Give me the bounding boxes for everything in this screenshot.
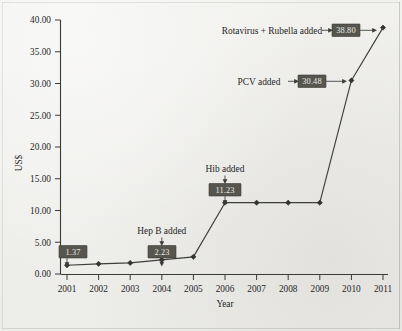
x-tick-label: 2007 [247, 284, 266, 294]
x-tick-2003: 2003 [121, 275, 140, 295]
annotation-2011: Rotavirus + Rubella added 38.80 [222, 24, 377, 37]
x-tick-2006: 2006 [216, 275, 235, 295]
y-tick-label: 0.00 [35, 269, 52, 279]
data-point [286, 200, 291, 205]
y-tick-label: 15.00 [30, 174, 51, 184]
x-tick-label: 2002 [89, 284, 108, 294]
x-tick-2004: 2004 [153, 275, 172, 295]
series-markers [64, 25, 385, 268]
x-tick-2007: 2007 [247, 275, 266, 295]
series-line [67, 28, 383, 266]
value-label-2004: 2.23 [154, 248, 169, 257]
x-axis-title: Year [216, 299, 234, 309]
annotation-label-hib: Hib added [206, 164, 245, 174]
annotation-2001: 1.37 [59, 246, 87, 268]
x-tick-label: 2006 [216, 284, 235, 294]
x-tick-2001: 2001 [58, 275, 77, 295]
y-tick-label: 30.00 [30, 79, 51, 89]
data-point [96, 261, 101, 266]
data-point [128, 260, 133, 265]
data-point [349, 78, 354, 83]
annotation-label-rota-rubella: Rotavirus + Rubella added [222, 26, 323, 36]
value-label-2011: 38.80 [336, 26, 355, 35]
data-point [380, 25, 385, 30]
y-tick-label: 25.00 [30, 111, 51, 121]
y-tick-label: 40.00 [30, 15, 51, 25]
x-tick-label: 2005 [184, 284, 203, 294]
y-tick-15: 15.00 [30, 174, 60, 184]
y-tick-label: 5.00 [35, 238, 52, 248]
value-label-2006: 11.23 [215, 186, 234, 195]
y-tick-40: 40.00 [30, 15, 60, 25]
y-tick-label: 35.00 [30, 47, 51, 57]
x-tick-2002: 2002 [89, 275, 108, 295]
x-tick-label: 2003 [121, 284, 140, 294]
annotation-label-hep-b: Hep B added [137, 226, 186, 236]
y-axis-title: US$ [14, 154, 24, 171]
annotation-2010: PCV added 30.48 [238, 75, 347, 88]
y-tick-25: 25.00 [30, 111, 60, 121]
value-label-2010: 30.48 [302, 77, 321, 86]
x-tick-2010: 2010 [342, 275, 361, 295]
annotation-2004: Hep B added 2.23 [137, 226, 186, 267]
line-chart: 40.00 35.00 30.00 25.00 20.00 15.00 [0, 0, 402, 331]
x-tick-label: 2004 [153, 284, 172, 294]
annotation-arrowhead-hep-b-bottom [159, 262, 164, 267]
x-tick-label: 2001 [58, 284, 77, 294]
x-tick-label: 2011 [374, 284, 393, 294]
data-point [317, 200, 322, 205]
annotation-arrowhead-rota-right [372, 28, 377, 33]
x-tick-2009: 2009 [311, 275, 330, 295]
y-tick-0: 0.00 [35, 269, 61, 279]
y-axis: 40.00 35.00 30.00 25.00 20.00 15.00 [14, 15, 61, 279]
y-tick-5: 5.00 [35, 238, 61, 248]
x-axis: 2001 2002 2003 2004 2005 2006 [58, 275, 393, 310]
annotation-label-pcv: PCV added [238, 77, 281, 87]
y-tick-30: 30.00 [30, 79, 60, 89]
y-tick-35: 35.00 [30, 47, 60, 57]
data-point [254, 200, 259, 205]
y-tick-20: 20.00 [30, 142, 60, 152]
x-tick-label: 2009 [311, 284, 330, 294]
y-tick-label: 10.00 [30, 206, 51, 216]
x-tick-label: 2008 [279, 284, 298, 294]
x-tick-label: 2010 [342, 284, 361, 294]
data-point [191, 254, 196, 259]
data-series [64, 25, 385, 268]
figure-canvas: 40.00 35.00 30.00 25.00 20.00 15.00 [0, 0, 402, 331]
value-label-2001: 1.37 [65, 248, 80, 257]
annotation-2006: Hib added 11.23 [206, 164, 245, 205]
y-tick-label: 20.00 [30, 142, 51, 152]
annotation-arrowhead-pcv-right [342, 79, 347, 84]
x-tick-2008: 2008 [279, 275, 298, 295]
x-tick-2005: 2005 [184, 275, 203, 295]
y-tick-10: 10.00 [30, 206, 60, 216]
x-tick-2011: 2011 [374, 275, 393, 295]
